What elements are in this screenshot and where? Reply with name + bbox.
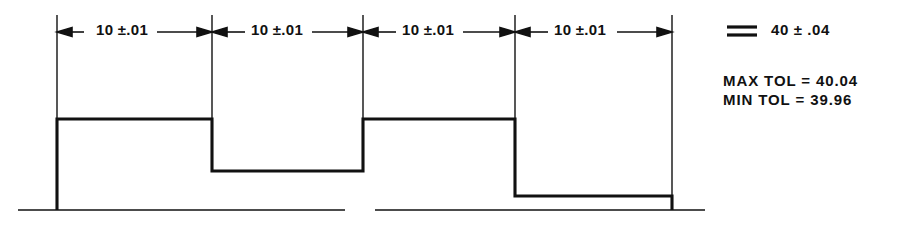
dimension-label-1: 10 ±.01 [96, 21, 148, 38]
max-tolerance-note: MAX TOL = 40.04 [723, 72, 858, 89]
dimension-label-2: 10 ±.01 [251, 21, 303, 38]
arrowhead-3-left [363, 28, 378, 37]
equals-sign-icon [727, 27, 757, 35]
part-profile-outline [57, 119, 672, 210]
dimension-label-3: 10 ±.01 [402, 21, 454, 38]
arrowhead-1-left [57, 28, 72, 37]
arrowhead-4-right [657, 28, 672, 37]
arrowhead-4-left [515, 28, 530, 37]
arrowhead-2-left [212, 28, 227, 37]
total-dimension-label: 40 ± .04 [771, 21, 830, 38]
engineering-drawing: 10 ±.01 10 ±.01 10 ±.01 10 ±.01 40 ± .04… [0, 0, 913, 226]
dimension-label-4: 10 ±.01 [554, 21, 606, 38]
min-tolerance-note: MIN TOL = 39.96 [723, 91, 852, 108]
